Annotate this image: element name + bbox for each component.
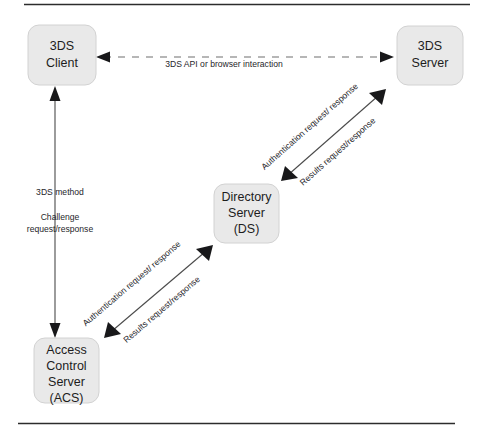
node-3ds-client-line2: Client [46,56,78,70]
node-directory-server[interactable]: Directory Server (DS) [214,184,279,243]
node-3ds-client[interactable]: 3DS Client [28,25,96,85]
arrow-head-to-acs [104,322,121,338]
edge-label-3ds-method: 3DS method [36,187,84,197]
edge-label-challenge-reqresp: request/response [27,224,94,234]
edge-acs-ds[interactable]: Authentication request/ response Results… [81,239,213,345]
arrow-head-to-client [96,52,110,63]
flow-diagram: 3DS API or browser interaction 3DS metho… [0,0,479,431]
node-3ds-server[interactable]: 3DS Server [397,26,463,85]
edge-client-acs[interactable]: 3DS method Challenge request/response [27,86,94,338]
node-directory-server-line3: (DS) [234,222,260,236]
node-acs-line4: (ACS) [49,391,83,405]
edge-label-client-server: 3DS API or browser interaction [165,59,283,69]
edge-client-server[interactable]: 3DS API or browser interaction [96,52,394,70]
edge-label-challenge: Challenge [41,212,80,222]
node-directory-server-line2: Server [228,206,265,220]
node-acs[interactable]: Access Control Server (ACS) [34,338,99,405]
arrow-head-to-ds-up [196,245,213,261]
diagram-page: 3DS API or browser interaction 3DS metho… [0,0,479,431]
arrow-head-to-client-up [50,86,61,101]
node-3ds-client-box [28,25,96,85]
node-3ds-client-line1: 3DS [50,39,74,53]
node-acs-line3: Server [48,375,85,389]
node-acs-line1: Access [46,343,86,357]
edge-ds-server[interactable]: Authentication request/ response Results… [259,81,386,188]
arrow-head-to-server [380,52,394,63]
node-acs-line2: Control [46,359,86,373]
arrow-head-to-acs-down [50,323,61,338]
arrow-head-to-3ds-server [369,89,386,105]
node-3ds-server-line1: 3DS [418,39,442,53]
node-3ds-server-line2: Server [412,56,449,70]
edge-label-ds-server-auth: Authentication request/ response [259,81,360,172]
node-directory-server-line1: Directory [221,190,272,204]
